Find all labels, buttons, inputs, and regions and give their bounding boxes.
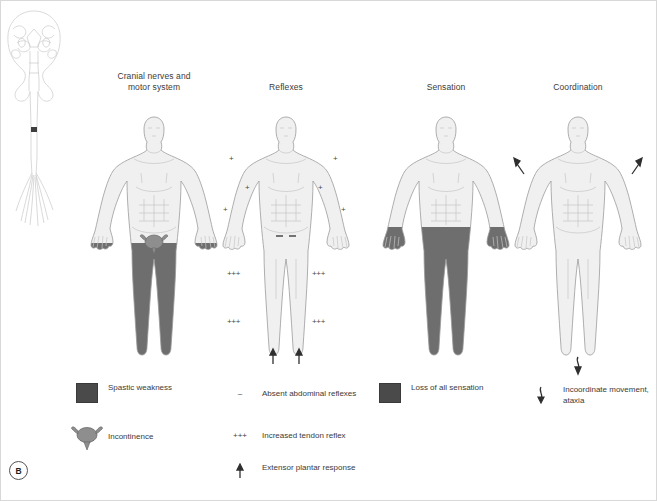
- body-figure-cranial-motor: [89, 109, 219, 364]
- reflex-marker: +++: [227, 318, 240, 326]
- reflex-marker: +: [223, 206, 228, 214]
- legend-item-spastic-weakness: Spastic weakness: [76, 383, 172, 403]
- legend-icon-up-arrow: [226, 463, 254, 479]
- legend-item-extensor-plantar-response: Extensor plantar response: [226, 463, 355, 479]
- legend-item-absent-abdominal-reflexes: – Absent abdominal reflexes: [226, 389, 356, 400]
- reflex-marker: +++: [312, 270, 325, 278]
- reflex-marker: +: [333, 155, 338, 163]
- legend-label: Increased tendon reflex: [262, 431, 346, 442]
- clinical-neurology-figure: Cranial nerves and motor system Reflexes…: [0, 0, 657, 501]
- panel-title-sensation: Sensation: [381, 82, 511, 93]
- legend-label: Incoordinate movement, ataxia: [563, 385, 649, 406]
- extensor-plantar-arrows: [270, 349, 302, 364]
- legend-symbol-plus-plus-plus: +++: [226, 431, 254, 440]
- legend-label: Extensor plantar response: [262, 463, 355, 474]
- reflex-marker: +: [245, 184, 250, 192]
- legend-item-loss-of-all-sensation: Loss of all sensation: [379, 383, 484, 403]
- panel-title-reflexes: Reflexes: [221, 82, 351, 93]
- brain-spinal-cord-diagram: [3, 7, 65, 237]
- reflex-marker: +: [341, 206, 346, 214]
- legend-item-increased-tendon-reflex: +++ Increased tendon reflex: [226, 431, 346, 442]
- legend-item-incoordinate-movement: Incoordinate movement, ataxia: [527, 385, 649, 406]
- legend-label: Absent abdominal reflexes: [262, 389, 356, 400]
- body-figure-reflexes: [221, 109, 351, 364]
- legend-swatch-spastic-weakness: [76, 383, 98, 403]
- legend-icon-wavy-arrow: [527, 385, 555, 405]
- legend-icon-bladder: [71, 425, 103, 451]
- ataxia-arrows-group: [513, 109, 643, 379]
- legend-label: Loss of all sensation: [411, 383, 484, 394]
- body-figure-sensation: [381, 109, 511, 364]
- lesion-marker: [31, 127, 37, 132]
- legend-label: Incontinence: [108, 432, 153, 443]
- panel-letter-badge: B: [9, 461, 28, 480]
- panel-title-cranial-motor: Cranial nerves and motor system: [89, 71, 219, 93]
- reflex-marker: +: [318, 184, 323, 192]
- legend-swatch-loss-of-sensation: [379, 383, 401, 403]
- legend-label: Spastic weakness: [108, 383, 172, 394]
- legend-item-incontinence: Incontinence: [71, 425, 153, 451]
- reflex-marker: +++: [312, 318, 325, 326]
- reflex-marker: +++: [227, 270, 240, 278]
- reflex-marker: +: [229, 155, 234, 163]
- panel-title-coordination: Coordination: [513, 82, 643, 93]
- legend-symbol-minus: –: [226, 389, 254, 398]
